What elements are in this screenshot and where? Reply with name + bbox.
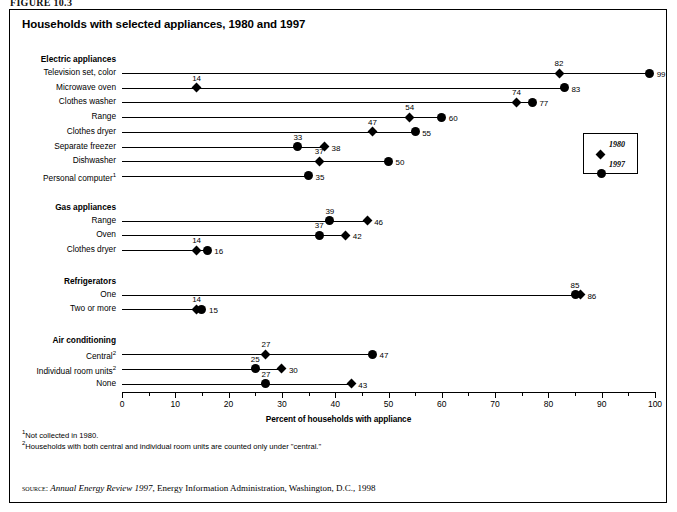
value-label: 27 [261, 370, 270, 379]
axis-tick-label: 30 [277, 399, 286, 409]
legend-item-1980: 1980 [584, 134, 637, 154]
row-label: Individual room units2 [0, 363, 116, 376]
row-connector-line [122, 88, 564, 89]
marker-1997 [560, 83, 569, 92]
row-connector-line [122, 235, 346, 236]
row-connector-line [122, 309, 202, 310]
value-label: 25 [251, 355, 260, 364]
axis-tick-label: 40 [330, 399, 339, 409]
value-label: 77 [539, 99, 548, 108]
footnote-text: Households with both central and individ… [25, 442, 321, 451]
footnote-2: 2Households with both central and indivi… [22, 440, 321, 451]
row-label: Clothes dryer [0, 244, 116, 254]
axis-tick-label: 0 [120, 399, 125, 409]
axis-tick-label: 100 [648, 399, 662, 409]
marker-1997 [251, 364, 260, 373]
value-label: 37 [315, 221, 324, 230]
value-label: 82 [555, 59, 564, 68]
axis-minor-tick [255, 392, 256, 396]
row-label: None [0, 378, 116, 388]
value-label: 33 [293, 133, 302, 142]
row-label: Dishwasher [0, 155, 116, 165]
axis-tick-label: 50 [384, 399, 393, 409]
source-rest: , Energy Information Administration, Was… [153, 483, 376, 493]
value-label: 50 [396, 158, 405, 167]
row-label: Microwave oven [0, 82, 116, 92]
value-label: 42 [353, 232, 362, 241]
value-label: 16 [214, 247, 223, 256]
row-label: Clothes dryer [0, 126, 116, 136]
row-label: One [0, 289, 116, 299]
axis-tick-label: 70 [490, 399, 499, 409]
legend-label-1980: 1980 [609, 140, 625, 149]
row-label: Two or more [0, 303, 116, 313]
page-title: Households with selected appliances, 198… [22, 18, 305, 30]
axis-minor-tick [202, 392, 203, 396]
axis-minor-tick [149, 392, 150, 396]
marker-1997 [645, 69, 654, 78]
marker-1997 [384, 157, 393, 166]
value-label: 38 [332, 143, 341, 152]
source-prefix: source: [22, 483, 50, 493]
footnote-ref: 1 [113, 172, 116, 178]
group-heading: Gas appliances [0, 202, 116, 212]
axis-tick [282, 392, 283, 398]
group-heading: Electric appliances [0, 54, 116, 64]
source-publication: Annual Energy Review 1997 [50, 483, 152, 493]
marker-1997 [368, 350, 377, 359]
row-label: Separate freezer [0, 141, 116, 151]
axis-tick [602, 392, 603, 398]
row-connector-line [122, 176, 309, 177]
row-label: Central2 [0, 348, 116, 361]
value-label: 37 [315, 147, 324, 156]
axis-minor-tick [362, 392, 363, 396]
value-label: 30 [289, 365, 298, 374]
row-connector-line [122, 384, 351, 385]
value-label: 47 [368, 118, 377, 127]
footnote-1: 1Not collected in 1980. [22, 429, 98, 440]
value-label: 35 [316, 172, 325, 181]
value-label: 14 [192, 295, 201, 304]
axis-tick [442, 392, 443, 398]
marker-1997 [411, 127, 420, 136]
chart-legend: 1980 1997 [583, 133, 638, 174]
value-label: 15 [209, 306, 218, 315]
axis-minor-tick [575, 392, 576, 396]
value-label: 39 [325, 207, 334, 216]
row-connector-line [122, 102, 532, 103]
axis-minor-tick [309, 392, 310, 396]
x-axis-title: Percent of households with appliance [0, 414, 677, 424]
value-label: 27 [261, 340, 270, 349]
axis-minor-tick [415, 392, 416, 396]
group-heading: Refrigerators [0, 276, 116, 286]
axis-tick [175, 392, 176, 398]
marker-1997 [203, 246, 212, 255]
row-connector-line [122, 161, 389, 162]
axis-minor-tick [628, 392, 629, 396]
value-label: 54 [405, 103, 414, 112]
axis-tick-label: 80 [544, 399, 553, 409]
axis-tick [229, 392, 230, 398]
row-label: Range [0, 215, 116, 225]
axis-minor-tick [468, 392, 469, 396]
value-label: 83 [571, 84, 580, 93]
value-label: 85 [571, 281, 580, 290]
row-label: Range [0, 111, 116, 121]
legend-label-1997: 1997 [609, 160, 625, 169]
footnote-text: Not collected in 1980. [25, 431, 98, 440]
axis-tick [655, 392, 656, 398]
footnote-ref: 2 [113, 365, 116, 371]
value-label: 47 [380, 351, 389, 360]
axis-minor-tick [522, 392, 523, 396]
axis-tick [548, 392, 549, 398]
row-label: Personal computer1 [0, 170, 116, 183]
value-label: 55 [422, 128, 431, 137]
figure-label: FIGURE 10.3 [10, 0, 72, 8]
axis-tick [389, 392, 390, 398]
value-label: 99 [657, 70, 666, 79]
axis-tick-label: 90 [597, 399, 606, 409]
legend-item-1997: 1997 [584, 154, 637, 174]
source-line: source: Annual Energy Review 1997, Energ… [22, 483, 376, 493]
value-label: 74 [512, 88, 521, 97]
row-label: Television set, color [0, 67, 116, 77]
